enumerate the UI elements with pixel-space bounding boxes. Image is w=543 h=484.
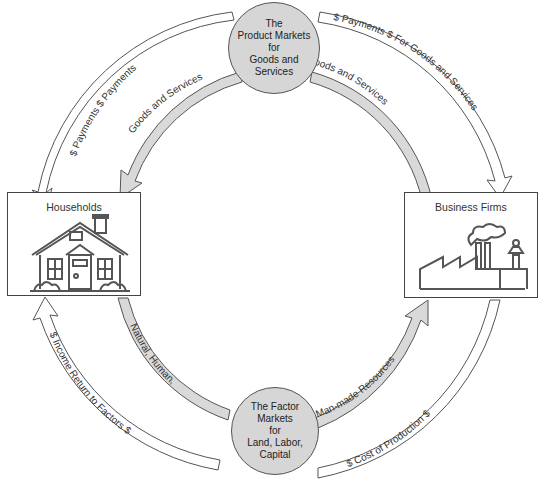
- factor-market-line: Land, Labor,: [247, 437, 303, 449]
- product-market-line: The: [238, 18, 311, 30]
- label-inner-bottom-left: Natural, Human,: [128, 322, 178, 386]
- label-outer-bottom-left: $ Income Return to Factors $: [48, 330, 134, 436]
- factor-market-line: The Factor: [247, 401, 303, 413]
- factor-market-node: The Factor Markets for Land, Labor, Capi…: [231, 387, 319, 475]
- product-market-line: Goods and: [238, 54, 311, 66]
- business-firms-node: Business Firms: [404, 192, 538, 298]
- house-icon: [8, 193, 140, 295]
- product-market-line: Services: [238, 66, 311, 78]
- factor-market-line: for: [247, 425, 303, 437]
- factor-market-line: Capital: [247, 449, 303, 461]
- label-inner-bottom-right: Man-made Resources: [314, 354, 397, 420]
- resources-band-from-households: [118, 298, 230, 420]
- label-outer-bottom-right: $ Cost of Production $: [345, 407, 432, 469]
- product-market-node: The Product Markets for Goods and Servic…: [228, 2, 320, 94]
- factory-icon: [405, 193, 537, 297]
- factor-market-line: Markets: [247, 413, 303, 425]
- product-market-line: for: [238, 42, 311, 54]
- product-market-line: Product Markets: [238, 30, 311, 42]
- households-node: Households: [7, 192, 141, 296]
